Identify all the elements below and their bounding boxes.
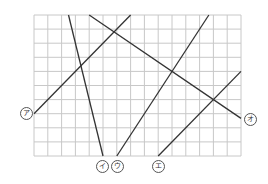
line-label-e: エ (152, 160, 165, 173)
line-label-o: オ (244, 113, 257, 126)
line-label-u: ウ (111, 160, 124, 173)
line-label-i: イ (96, 160, 109, 173)
line-a (34, 15, 131, 114)
line-o (89, 15, 241, 118)
grid (34, 15, 241, 156)
grid-diagram (0, 0, 268, 184)
line-label-a: ア (20, 107, 33, 120)
